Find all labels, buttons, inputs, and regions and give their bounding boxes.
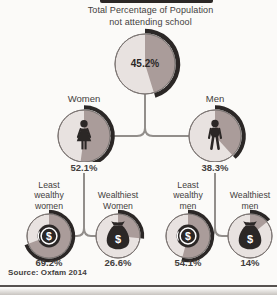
wealthiest-men-value: 14%	[220, 257, 277, 268]
least-wealthy-men-value: 54.1%	[158, 257, 218, 268]
page-rule	[0, 285, 277, 287]
men-value: 38.3%	[185, 162, 245, 173]
infographic: Total Percentage of Population not atten…	[0, 0, 277, 295]
total-value: 45.2%	[105, 58, 185, 69]
source-credit: Source: Oxfam 2014	[8, 268, 87, 277]
least-wealthy-women-value: 69.2%	[19, 257, 79, 268]
page-edge-shadow	[0, 288, 277, 295]
women-value: 52.1%	[54, 162, 114, 173]
wealthiest-women-value: 26.6%	[88, 257, 148, 268]
